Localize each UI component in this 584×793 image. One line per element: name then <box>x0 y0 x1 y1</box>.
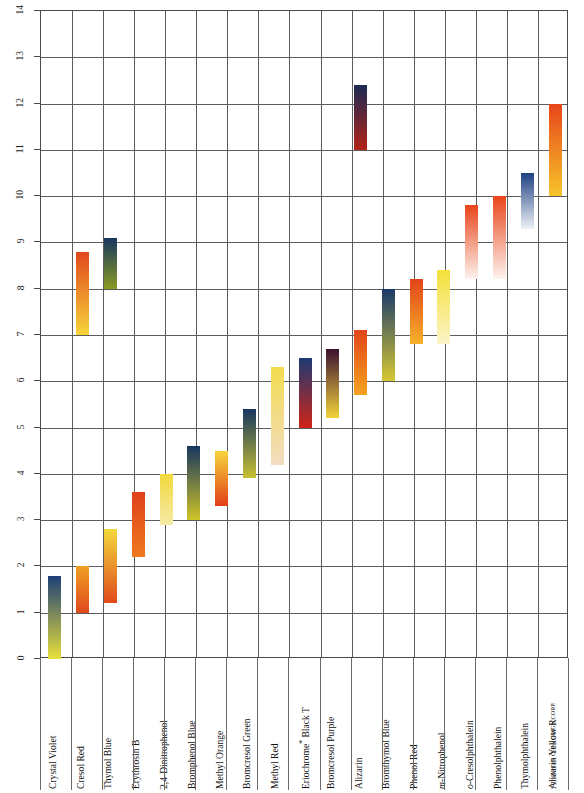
x-axis-label: Thymol Blue <box>101 659 114 789</box>
y-tick-label: 1 <box>8 607 34 617</box>
column-separator <box>444 658 445 790</box>
indicator-bar <box>493 196 506 279</box>
indicator-bar <box>160 474 173 525</box>
indicator-bar <box>437 270 450 344</box>
column-separator <box>164 658 165 790</box>
column-separator <box>413 658 414 790</box>
indicator-bar <box>521 173 534 229</box>
plot-area <box>40 10 568 658</box>
indicator-bar <box>326 349 339 418</box>
x-axis-label: Methyl Red <box>268 659 281 789</box>
column-separator <box>195 658 196 790</box>
column-separator <box>226 658 227 790</box>
gridline-horizontal <box>41 613 567 614</box>
indicator-bar <box>215 451 228 507</box>
column-separator <box>382 658 383 790</box>
y-tick-label: 11 <box>8 144 34 154</box>
column-separator <box>537 658 538 790</box>
x-axis-label: Erythrosin B <box>129 659 142 789</box>
column-separator <box>475 658 476 790</box>
y-tick-label: 13 <box>8 51 34 61</box>
x-axis-label: Methyl Orange <box>213 659 226 789</box>
y-tick-label: 12 <box>8 98 34 108</box>
x-axis-label: Crystal Violet <box>46 659 59 789</box>
x-axis-label: Thymolphthalein <box>518 659 531 789</box>
gridline-horizontal <box>41 150 567 151</box>
y-tick-label: 6 <box>8 375 34 385</box>
indicator-bar <box>48 576 61 659</box>
y-tick-label: 14 <box>8 5 34 15</box>
x-axis-label: m-Nitrophenol <box>435 659 448 789</box>
y-tick-label: 7 <box>8 329 34 339</box>
gridline-vertical <box>227 11 228 657</box>
gridline-horizontal <box>41 335 567 336</box>
indicator-bar <box>299 358 312 427</box>
column-separator <box>40 658 41 790</box>
y-tick-label: 3 <box>8 514 34 524</box>
gridline-horizontal <box>41 474 567 475</box>
column-separator <box>71 658 72 790</box>
indicator-bar <box>187 446 200 520</box>
indicator-bar <box>465 205 478 279</box>
y-tick-label: 4 <box>8 468 34 478</box>
y-tick-label: 2 <box>8 560 34 570</box>
gridline-horizontal <box>41 242 567 243</box>
gridline-vertical <box>289 11 290 657</box>
indicator-bar <box>549 104 562 197</box>
indicator-bar <box>243 409 256 478</box>
indicator-bar <box>104 238 117 289</box>
y-tick-label: 9 <box>8 236 34 246</box>
gridline-vertical <box>196 11 197 657</box>
column-separator <box>257 658 258 790</box>
gridline-vertical <box>538 11 539 657</box>
x-axis-label: Phenolphthalein <box>491 659 504 789</box>
indicator-bar <box>354 330 367 395</box>
indicator-bar <box>76 566 89 612</box>
indicator-bar <box>410 279 423 344</box>
gridline-vertical <box>476 11 477 657</box>
x-axis-label: o-Cresolphthalein <box>463 659 476 789</box>
x-axis-label: Alizarin <box>352 659 365 789</box>
x-axis-label: Eriochrome* Black T <box>296 659 309 789</box>
column-separator <box>288 658 289 790</box>
column-separator <box>102 658 103 790</box>
gridline-vertical <box>321 11 322 657</box>
column-separator <box>133 658 134 790</box>
indicator-bar <box>382 289 395 382</box>
gridline-horizontal <box>41 428 567 429</box>
indicator-bar <box>76 252 89 335</box>
indicator-bar <box>354 85 367 150</box>
x-axis-label: Cresol Red <box>74 659 87 789</box>
column-separator <box>568 658 569 790</box>
y-tick-label: 5 <box>8 422 34 432</box>
gridline-horizontal <box>41 566 567 567</box>
indicator-bar <box>104 529 117 603</box>
x-axis-labels: * Trademark CIBA GEIGY CORP. Crystal Vio… <box>0 658 584 793</box>
gridline-horizontal <box>41 289 567 290</box>
indicator-bar <box>271 367 284 464</box>
ph-indicator-chart: 01234567891011121314 * Trademark CIBA GE… <box>0 0 584 793</box>
gridline-horizontal <box>41 520 567 521</box>
y-tick-label: 10 <box>8 190 34 200</box>
gridline-vertical <box>507 11 508 657</box>
x-axis-label: Bromcresol Green <box>240 659 253 789</box>
gridline-vertical <box>72 11 73 657</box>
gridline-horizontal <box>41 196 567 197</box>
column-separator <box>506 658 507 790</box>
indicator-bar <box>132 492 145 557</box>
x-axis-label: Bromcresol Purple <box>324 659 337 789</box>
y-tick-label: 8 <box>8 283 34 293</box>
gridline-vertical <box>165 11 166 657</box>
gridline-horizontal <box>41 57 567 58</box>
gridline-vertical <box>134 11 135 657</box>
gridline-vertical <box>258 11 259 657</box>
x-axis-label: Alizarin Yellow R <box>546 659 559 789</box>
column-separator <box>320 658 321 790</box>
gridline-vertical <box>352 11 353 657</box>
gridline-horizontal <box>41 104 567 105</box>
column-separator <box>351 658 352 790</box>
